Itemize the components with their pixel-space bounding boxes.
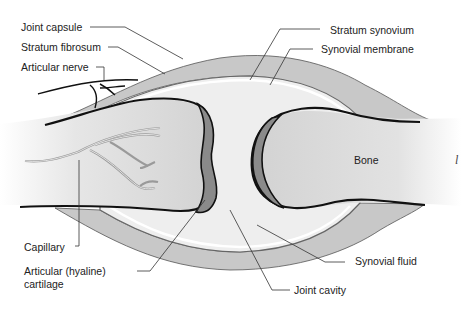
- label-synovial-membrane: Synovial membrane: [321, 43, 414, 55]
- label-articular-cartilage-2: cartilage: [24, 278, 64, 290]
- label-stratum-synovium: Stratum synovium: [330, 24, 414, 36]
- label-synovial-fluid: Synovial fluid: [355, 255, 417, 267]
- label-stratum-fibrosum: Stratum fibrosum: [21, 41, 101, 53]
- label-articular-nerve: Articular nerve: [21, 61, 89, 73]
- label-bone: Bone: [354, 154, 379, 166]
- label-capillary: Capillary: [24, 241, 66, 253]
- label-articular-cartilage-1: Articular (hyaline): [24, 265, 106, 277]
- diagram-canvas: Joint capsule Stratum fibrosum Articular…: [0, 0, 461, 311]
- label-joint-cavity: Joint cavity: [294, 284, 347, 296]
- left-bone: [0, 100, 215, 212]
- label-joint-capsule: Joint capsule: [21, 21, 82, 33]
- synovial-joint-diagram: Joint capsule Stratum fibrosum Articular…: [0, 0, 461, 311]
